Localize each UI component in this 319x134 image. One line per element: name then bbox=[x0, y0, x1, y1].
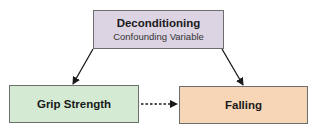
confounder-node: Deconditioning Confounding Variable bbox=[93, 10, 224, 49]
confounder-subtitle: Confounding Variable bbox=[113, 31, 204, 43]
arrow-confounder-to-exposure bbox=[73, 49, 93, 84]
outcome-title: Falling bbox=[225, 98, 262, 112]
arrow-confounder-to-outcome bbox=[222, 49, 243, 85]
exposure-node: Grip Strength bbox=[9, 85, 139, 123]
exposure-title: Grip Strength bbox=[37, 97, 111, 111]
confounder-title: Deconditioning bbox=[117, 16, 201, 30]
outcome-node: Falling bbox=[179, 86, 308, 124]
